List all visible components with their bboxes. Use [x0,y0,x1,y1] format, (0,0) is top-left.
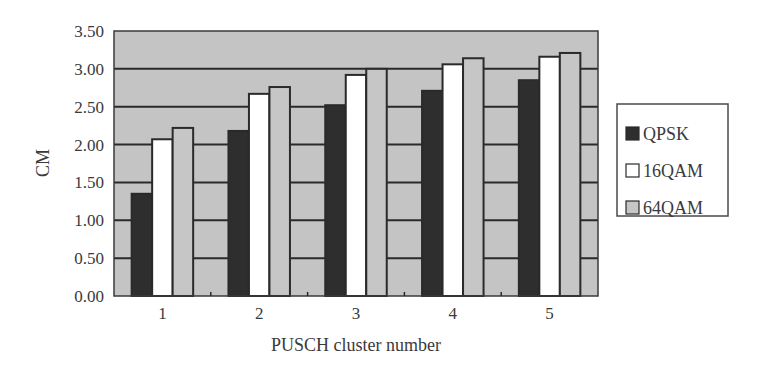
y-axis-title: CM [33,149,53,177]
bar-16qam-1 [152,139,173,296]
legend-swatch-16qam [626,164,639,177]
bar-qpsk-2 [228,131,249,296]
y-axis-tick-labels: 0.000.501.001.502.002.503.003.50 [74,22,104,306]
bar-16qam-3 [346,75,367,296]
bar-chart: 0.000.501.001.502.002.503.003.50 12345 C… [0,0,766,374]
y-tick-label: 3.50 [74,22,104,41]
legend-swatch-64qam [626,201,639,214]
y-tick-label: 2.50 [74,98,104,117]
bar-qpsk-3 [325,105,346,296]
x-tick-label: 2 [255,304,264,323]
bar-16qam-4 [443,64,464,296]
y-tick-label: 3.00 [74,60,104,79]
x-tick-label: 5 [545,304,554,323]
legend: QPSK16QAM64QAM [617,104,728,218]
bar-64qam-1 [173,128,194,296]
y-tick-label: 2.00 [74,136,104,155]
legend-label-16qam: 16QAM [643,161,703,181]
x-tick-label: 4 [449,304,458,323]
legend-label-64qam: 64QAM [643,198,703,218]
legend-swatch-qpsk [626,127,639,140]
bar-qpsk-1 [132,194,153,296]
bar-64qam-5 [560,53,581,296]
bar-64qam-2 [269,87,290,296]
x-axis-title: PUSCH cluster number [271,335,441,355]
bar-64qam-4 [463,58,484,296]
bar-16qam-5 [539,57,560,296]
bar-16qam-2 [249,94,270,296]
bar-qpsk-4 [422,91,443,296]
y-tick-label: 1.00 [74,211,104,230]
legend-label-qpsk: QPSK [643,124,689,144]
x-tick-label: 1 [158,304,167,323]
bar-qpsk-5 [519,80,540,296]
x-tick-label: 3 [352,304,361,323]
bar-64qam-3 [366,69,387,296]
y-tick-label: 0.00 [74,287,104,306]
y-tick-label: 1.50 [74,173,104,192]
y-tick-label: 0.50 [74,249,104,268]
